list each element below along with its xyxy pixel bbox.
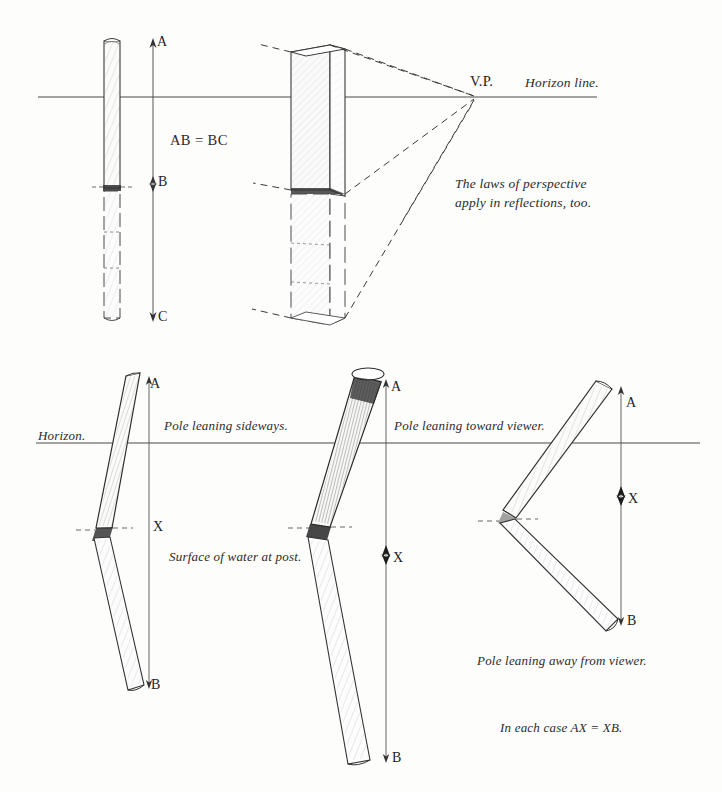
pole-away-label-x: X xyxy=(628,490,638,508)
perspective-note-line1: The laws of perspective xyxy=(455,175,587,192)
drawing-canvas: A B C AB = BC V.P. Horizon line. The law… xyxy=(0,0,722,792)
perspective-note-line2: apply in reflections, too. xyxy=(455,194,591,211)
pole-toward-label-a: A xyxy=(391,378,401,396)
pole-sideways-graphic xyxy=(76,373,144,691)
conclusion-label-ax-xb: In each case AX = XB. xyxy=(500,720,622,737)
caption-pole-away-viewer: Pole leaning away from viewer. xyxy=(477,653,647,670)
horizon-line-label: Horizon line. xyxy=(525,74,599,91)
perspective-post-graphic xyxy=(291,45,345,325)
water-surface-label: Surface of water at post. xyxy=(169,549,301,566)
pole-away-viewer-measure-axis xyxy=(617,386,626,626)
equality-label-ab-bc: AB = BC xyxy=(170,131,228,150)
pole-sideways-label-x: X xyxy=(153,518,163,536)
flat-post-label-b: B xyxy=(158,173,168,191)
pole-toward-label-b: B xyxy=(392,749,402,767)
pole-away-label-a: A xyxy=(626,394,636,412)
caption-pole-sideways: Pole leaning sideways. xyxy=(164,418,288,435)
illustration-svg xyxy=(0,0,722,792)
pole-toward-label-x: X xyxy=(393,549,403,567)
pole-away-label-b: B xyxy=(627,612,637,630)
flat-post-label-c: C xyxy=(158,308,168,326)
flat-post-label-a: A xyxy=(157,33,167,51)
bottom-horizon-label: Horizon. xyxy=(38,428,85,445)
vanishing-point-label: V.P. xyxy=(470,72,493,91)
abc-measure-axis xyxy=(150,38,157,322)
vanishing-point-guides xyxy=(252,44,474,318)
pole-toward-viewer-measure-axis xyxy=(382,379,391,763)
pole-sideways-label-b: B xyxy=(151,676,161,694)
flat-post-graphic xyxy=(92,39,133,321)
pole-sideways-measure-axis xyxy=(146,376,152,689)
caption-pole-toward-viewer: Pole leaning toward viewer. xyxy=(394,418,545,435)
pole-sideways-label-a: A xyxy=(150,375,160,393)
pole-toward-viewer-graphic xyxy=(288,368,384,765)
